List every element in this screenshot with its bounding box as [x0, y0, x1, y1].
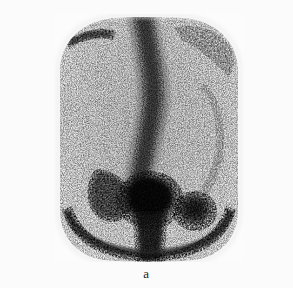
scintigram-canvas [54, 14, 244, 262]
body-region [54, 14, 244, 262]
figure-caption-letter: a [0, 266, 293, 282]
count-speckle-overlay [54, 14, 244, 262]
bone-scan-image [54, 14, 244, 262]
figure-panel: a [0, 0, 293, 288]
